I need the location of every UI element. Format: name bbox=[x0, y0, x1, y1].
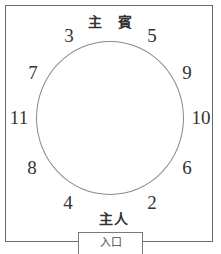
entrance-box: 入口 bbox=[78, 232, 143, 254]
seat-8: 8 bbox=[27, 158, 37, 177]
guest-of-honor-label: 主 賓 bbox=[88, 11, 139, 31]
seat-9: 9 bbox=[182, 63, 192, 82]
host-label: 主人 bbox=[99, 208, 129, 228]
entrance-label: 入口 bbox=[100, 236, 122, 249]
seat-5: 5 bbox=[147, 26, 157, 45]
seat-2: 2 bbox=[147, 193, 157, 212]
seat-3: 3 bbox=[64, 26, 74, 45]
seat-4: 4 bbox=[63, 193, 73, 212]
round-table bbox=[36, 41, 184, 195]
seat-7: 7 bbox=[28, 63, 38, 82]
seat-6: 6 bbox=[182, 158, 192, 177]
seat-11: 11 bbox=[10, 108, 28, 127]
seat-10: 10 bbox=[192, 108, 211, 127]
